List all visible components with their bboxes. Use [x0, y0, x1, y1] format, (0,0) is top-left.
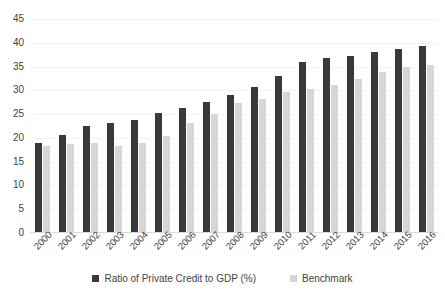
bar-benchmark: [403, 67, 410, 233]
bar-group: [150, 19, 174, 233]
legend-swatch-primary-icon: [92, 275, 99, 282]
y-axis-tick-label: 40: [13, 38, 24, 48]
x-axis-tick-label: 2011: [296, 230, 318, 252]
legend-item-primary: Ratio of Private Credit to GDP (%): [92, 273, 256, 284]
y-axis-tick-label: 5: [18, 204, 24, 214]
bar-benchmark: [43, 146, 50, 233]
bar-group: [102, 19, 126, 233]
bar-group: [246, 19, 270, 233]
bar-group: [198, 19, 222, 233]
bar-benchmark: [283, 92, 290, 233]
x-axis-tick: 2006: [174, 234, 198, 266]
bar-private-credit: [107, 123, 114, 233]
bar-benchmark: [235, 103, 242, 233]
bar-private-credit: [251, 87, 258, 233]
bar-group: [174, 19, 198, 233]
bar-private-credit: [83, 126, 90, 233]
bar-private-credit: [395, 49, 402, 233]
bar-private-credit: [419, 46, 426, 233]
y-axis-tick-label: 10: [13, 180, 24, 190]
bar-group: [390, 19, 414, 233]
x-axis-tick: 2012: [318, 234, 342, 266]
bar-benchmark: [331, 85, 338, 233]
bar-group: [126, 19, 150, 233]
bar-benchmark: [427, 65, 434, 233]
legend-swatch-benchmark-icon: [290, 275, 297, 282]
bar-group: [342, 19, 366, 233]
bar-chart: 051015202530354045 200020012002200320042…: [0, 0, 445, 289]
bar-groups: [30, 19, 438, 233]
bar-private-credit: [203, 102, 210, 233]
bar-benchmark: [115, 146, 122, 233]
bar-benchmark: [67, 144, 74, 233]
bar-group: [222, 19, 246, 233]
bar-private-credit: [59, 135, 66, 233]
bar-benchmark: [379, 72, 386, 233]
bar-benchmark: [355, 79, 362, 233]
bar-private-credit: [371, 52, 378, 233]
bar-private-credit: [227, 95, 234, 233]
bar-benchmark: [163, 136, 170, 233]
bar-private-credit: [275, 76, 282, 233]
bar-group: [414, 19, 438, 233]
x-axis-tick: 2013: [342, 234, 366, 266]
bar-group: [366, 19, 390, 233]
bar-group: [270, 19, 294, 233]
bar-group: [54, 19, 78, 233]
x-axis-tick: 2016: [414, 234, 438, 266]
chart-legend: Ratio of Private Credit to GDP (%) Bench…: [0, 273, 445, 284]
bar-group: [294, 19, 318, 233]
bar-private-credit: [155, 113, 162, 233]
bar-private-credit: [323, 58, 330, 233]
y-axis-tick-label: 30: [13, 85, 24, 95]
bar-benchmark: [307, 89, 314, 233]
y-axis-tick-label: 0: [18, 228, 24, 238]
x-axis-tick: 2002: [78, 234, 102, 266]
bar-private-credit: [179, 108, 186, 233]
x-axis-tick: 2009: [246, 234, 270, 266]
y-axis-tick-label: 20: [13, 133, 24, 143]
legend-item-benchmark: Benchmark: [290, 273, 353, 284]
bar-benchmark: [139, 143, 146, 233]
bar-private-credit: [35, 143, 42, 233]
bar-group: [78, 19, 102, 233]
bar-private-credit: [131, 120, 138, 233]
x-axis-tick: 2014: [366, 234, 390, 266]
x-axis-tick: 2015: [390, 234, 414, 266]
plot-area: [30, 19, 438, 233]
x-axis-tick: 2005: [150, 234, 174, 266]
bar-benchmark: [187, 123, 194, 233]
x-axis-tick: 2000: [30, 234, 54, 266]
bar-benchmark: [211, 114, 218, 233]
bar-group: [318, 19, 342, 233]
bar-group: [30, 19, 54, 233]
y-axis-tick-label: 45: [13, 14, 24, 24]
bar-private-credit: [347, 56, 354, 233]
x-axis-tick: 2010: [270, 234, 294, 266]
legend-label-primary: Ratio of Private Credit to GDP (%): [104, 273, 256, 284]
x-axis-tick: 2011: [294, 234, 318, 266]
x-axis-tick: 2003: [102, 234, 126, 266]
bar-benchmark: [259, 99, 266, 233]
x-axis-tick: 2007: [198, 234, 222, 266]
x-axis-tick: 2004: [126, 234, 150, 266]
y-axis-tick-label: 15: [13, 157, 24, 167]
y-axis-tick-label: 25: [13, 109, 24, 119]
x-axis-tick: 2001: [54, 234, 78, 266]
x-axis: 2000200120022003200420052006200720082009…: [30, 234, 438, 266]
legend-label-benchmark: Benchmark: [302, 273, 353, 284]
x-axis-tick: 2008: [222, 234, 246, 266]
y-axis-tick-label: 35: [13, 62, 24, 72]
bar-benchmark: [91, 143, 98, 233]
y-axis: 051015202530354045: [0, 0, 30, 233]
bar-private-credit: [299, 62, 306, 233]
